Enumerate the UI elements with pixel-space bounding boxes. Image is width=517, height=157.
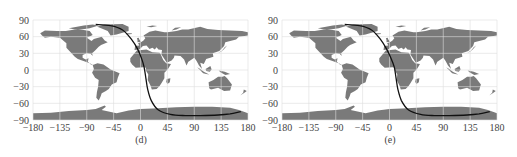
y-tick-label: 90 <box>268 15 278 26</box>
x-tick-label: −45 <box>355 122 371 133</box>
x-tick-label: 45 <box>162 122 172 133</box>
x-tick-label: −135 <box>299 122 320 133</box>
panel-caption-d: (d) <box>126 134 156 145</box>
y-tick-label: −90 <box>262 115 278 126</box>
x-tick-label: 180 <box>490 122 505 133</box>
y-tick-label: 30 <box>268 48 278 59</box>
x-tick-label: −90 <box>79 122 95 133</box>
x-tick-label: −45 <box>106 122 122 133</box>
panel-e: −180−135−90−45045901351809060300−30−60−9… <box>249 0 507 157</box>
y-tick-label: 30 <box>19 48 29 59</box>
y-tick-label: −90 <box>13 115 29 126</box>
y-tick-label: 0 <box>24 65 29 76</box>
panel-caption-e: (e) <box>375 134 405 145</box>
panel-d: −180−135−90−45045901351809060300−30−60−9… <box>0 0 258 157</box>
plot-area <box>33 20 248 120</box>
y-tick-label: −30 <box>13 81 29 92</box>
x-tick-label: 0 <box>138 122 143 133</box>
y-tick-label: 90 <box>19 15 29 26</box>
x-tick-label: 135 <box>463 122 478 133</box>
y-tick-label: 60 <box>19 31 29 42</box>
y-tick-label: −30 <box>262 81 278 92</box>
y-tick-label: 0 <box>273 65 278 76</box>
x-tick-label: 45 <box>411 122 421 133</box>
x-tick-label: 90 <box>438 122 448 133</box>
x-tick-label: 135 <box>214 122 229 133</box>
y-tick-label: 60 <box>268 31 278 42</box>
plot-area <box>282 20 497 120</box>
x-tick-label: 0 <box>387 122 392 133</box>
x-tick-label: −90 <box>328 122 344 133</box>
x-tick-label: 90 <box>189 122 199 133</box>
y-tick-label: −60 <box>262 98 278 109</box>
x-tick-label: −135 <box>50 122 71 133</box>
y-tick-label: −60 <box>13 98 29 109</box>
